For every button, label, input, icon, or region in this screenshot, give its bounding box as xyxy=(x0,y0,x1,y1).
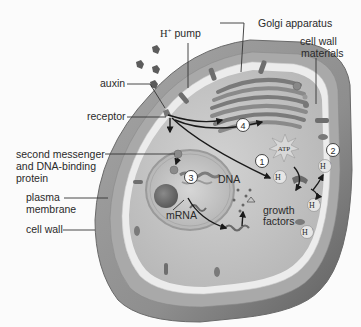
receptor-label: receptor xyxy=(87,110,126,122)
h-ion: H + xyxy=(301,226,315,239)
plant-cell-diagram: ATP H + H + H + H + xyxy=(0,0,361,327)
auxin-label: auxin xyxy=(100,77,125,89)
atp-label: ATP xyxy=(278,145,291,153)
svg-text:+: + xyxy=(329,161,332,166)
plasma-membrane-label-1: plasma xyxy=(26,191,60,203)
cell-wall-materials-label-1: cell wall xyxy=(300,35,337,47)
svg-text:H: H xyxy=(275,173,281,182)
svg-text:+: + xyxy=(284,172,287,177)
svg-text:1: 1 xyxy=(259,157,264,167)
dna-binding-protein xyxy=(170,166,178,174)
mrna-label: mRNA xyxy=(166,209,197,221)
dna-label: DNA xyxy=(218,173,240,185)
h-ion: H + xyxy=(308,199,322,212)
svg-text:H: H xyxy=(302,228,308,237)
plasma-membrane-label-2: membrane xyxy=(26,203,76,215)
svg-text:4: 4 xyxy=(240,121,245,131)
h-ion: H + xyxy=(319,160,333,173)
svg-text:+: + xyxy=(311,227,314,232)
svg-text:+: + xyxy=(318,200,321,205)
second-messenger-label-2: and DNA-binding xyxy=(16,160,96,172)
growth-factors-label-2: factors xyxy=(263,215,295,227)
second-messenger-label-1: second messenger xyxy=(16,148,105,160)
svg-text:H: H xyxy=(320,162,326,171)
second-messenger-label-3: protein xyxy=(16,172,48,184)
step-3-marker: 3 xyxy=(185,171,198,184)
second-messenger xyxy=(174,150,182,158)
nucleolus xyxy=(154,184,178,208)
step-2-marker: 2 xyxy=(327,144,340,157)
svg-text:2: 2 xyxy=(330,146,335,156)
h-ion: H + xyxy=(274,171,288,184)
step-1-marker: 1 xyxy=(256,155,269,168)
svg-text:H: H xyxy=(309,201,315,210)
svg-text:3: 3 xyxy=(188,173,193,183)
step-4-marker: 4 xyxy=(237,119,250,132)
diagram-canvas: ATP H + H + H + H + xyxy=(0,0,361,327)
cell-wall-materials-label-2: materials xyxy=(301,47,344,59)
cell-wall-label: cell wall xyxy=(26,223,63,235)
auxin-molecules xyxy=(136,45,160,89)
golgi-apparatus-label: Golgi apparatus xyxy=(258,17,332,29)
h-pump-label: H+ pump xyxy=(160,27,201,39)
